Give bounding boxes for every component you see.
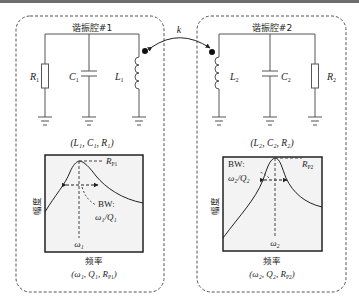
ground-icon: [132, 117, 146, 125]
coupling-label: k: [177, 24, 182, 35]
plot2-bw-label: BW:: [228, 159, 245, 169]
label-c1: C1: [69, 71, 79, 83]
ground-icon: [212, 117, 226, 125]
coupling-dot-left: [142, 48, 148, 54]
plot2-center-label: ω₂: [270, 238, 279, 248]
plot1-bw-label: BW:: [98, 199, 115, 209]
cavity2-params: (L₂, C₂, R₂): [250, 138, 293, 149]
ground-icon: [308, 117, 322, 125]
label-c2: C2: [281, 71, 291, 83]
plot2-xlabel: 频率: [263, 256, 281, 266]
plot1-params: (ω₁, Q₁, RP1): [71, 269, 116, 280]
cavity2-circuit: [212, 34, 322, 125]
coupling-dot-right: [209, 49, 215, 55]
plot1-bw-formula: ω₁/Q₁: [95, 212, 117, 222]
ground-icon: [263, 117, 277, 125]
plot2-ylabel: 幅度: [210, 197, 220, 215]
label-r1: R1: [29, 71, 39, 83]
inductor-l2: [215, 57, 219, 89]
inductor-l1: [135, 57, 139, 89]
cavity2-plot: RP2 BW: ω₂/Q₂ ω₂ 幅度 频率 (ω₂, Q₂, RP2): [210, 157, 322, 280]
plot1-ylabel: 幅度: [32, 197, 42, 215]
ground-icon: [82, 117, 96, 125]
cavity1-params: (L₁, C₁, R₁): [70, 138, 113, 149]
cavity1-plot: RP1 BW: ω₁/Q₁ ω₁ 幅度 频率 (ω₁, Q₁, RP1): [32, 155, 143, 280]
plot2-bw-formula: ω₂/Q₂: [228, 173, 250, 183]
plot1-xlabel: 频率: [85, 256, 103, 266]
cavity1-title: 谐振腔#1: [72, 22, 112, 33]
cavity2-title: 谐振腔#2: [252, 22, 292, 33]
label-r2: R2: [326, 71, 336, 83]
label-l2: L2: [229, 71, 239, 83]
resistor-r1: [42, 64, 49, 88]
plot2-params: (ω₂, Q₂, RP2): [249, 269, 294, 280]
label-l1: L1: [114, 71, 124, 83]
resistor-r2: [312, 64, 319, 88]
coupling-arrow: k: [142, 24, 215, 55]
plot1-center-label: ω₁: [74, 239, 83, 249]
ground-icon: [38, 117, 52, 125]
cavity1-circuit: [38, 34, 146, 125]
plot2-frame: [223, 157, 322, 251]
resonator-diagram: k 谐振腔#1 R1 C1 L1 (L₁, C₁, R₁): [0, 0, 359, 306]
